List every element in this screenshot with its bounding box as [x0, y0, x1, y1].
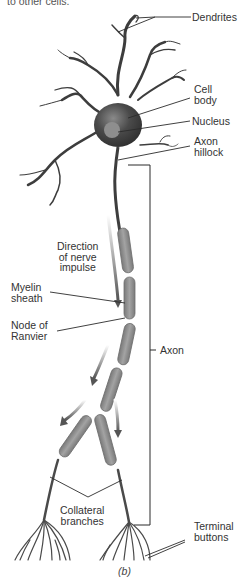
label-axon-hillock: Axon hillock: [194, 136, 223, 157]
label-direction: Direction of nerve impulse: [57, 241, 98, 273]
label-terminal-buttons: Terminal buttons: [194, 521, 234, 542]
label-dendrites: Dendrites: [192, 12, 237, 23]
label-nucleus: Nucleus: [192, 116, 230, 127]
label-node-of-ranvier: Node of Ranvier: [11, 320, 48, 341]
terminal-arbor-right: [100, 522, 150, 560]
figure-label: (b): [0, 565, 249, 577]
label-cell-body: Cell body: [194, 84, 217, 105]
nucleus: [104, 122, 120, 138]
label-collateral-branches: Collateral branches: [60, 505, 104, 526]
label-axon: Axon: [160, 345, 184, 356]
label-myelin-sheath: Myelin sheath: [11, 282, 43, 303]
